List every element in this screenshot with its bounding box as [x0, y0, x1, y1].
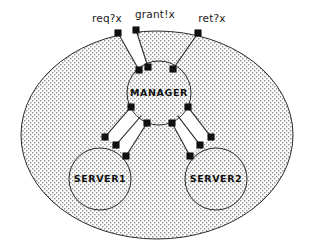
port-port-req[interactable]	[115, 30, 121, 36]
port-s1-p-a[interactable]	[102, 134, 108, 140]
node-label-manager: MANAGER	[130, 87, 188, 98]
port-s2-p-a[interactable]	[208, 134, 214, 140]
node-label-server2: SERVER2	[190, 173, 243, 184]
port-mp-s2-out[interactable]	[185, 104, 191, 110]
port-port-ret[interactable]	[195, 30, 201, 36]
port-mp-grant[interactable]	[145, 64, 151, 70]
port-s1-p-c[interactable]	[123, 153, 129, 159]
node-label-server1: SERVER1	[74, 173, 127, 184]
port-mp-s1-in[interactable]	[144, 120, 150, 126]
port-s2-p-b[interactable]	[197, 142, 203, 148]
port-mp-s1-out[interactable]	[128, 104, 134, 110]
port-s2-p-c[interactable]	[187, 153, 193, 159]
channel-label-ret: ret?x	[198, 12, 225, 24]
network-diagram: MANAGERSERVER1SERVER2 req?xgrant!xret?x	[0, 0, 314, 251]
port-s1-p-b[interactable]	[113, 142, 119, 148]
channel-label-req: req?x	[92, 12, 122, 24]
port-port-grant[interactable]	[133, 27, 139, 33]
channel-labels: req?xgrant!xret?x	[92, 8, 226, 24]
channel-label-grant: grant!x	[135, 8, 175, 20]
port-mp-ret[interactable]	[170, 66, 176, 72]
port-mp-s2-in[interactable]	[169, 120, 175, 126]
port-mp-req[interactable]	[136, 67, 142, 73]
diagram-canvas: MANAGERSERVER1SERVER2 req?xgrant!xret?x	[0, 0, 314, 251]
